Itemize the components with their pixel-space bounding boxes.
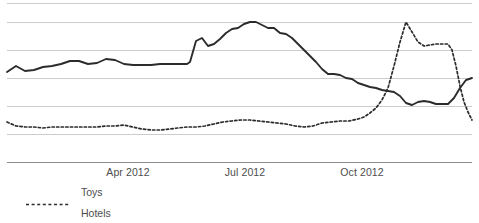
legend-swatch-hotels: [26, 213, 70, 215]
legend-label-hotels: Hotels: [81, 207, 111, 220]
series-lines: [7, 22, 472, 130]
x-tick-label-1: Jul 2012: [225, 166, 266, 178]
legend-label-toys: Toys: [81, 186, 103, 199]
legend-swatch-toys: [26, 192, 70, 194]
legend-item-hotels[interactable]: Hotels: [26, 207, 111, 220]
series-line-toys: [7, 22, 472, 130]
chart-legend: Toys Hotels: [26, 186, 111, 220]
line-chart: Apr 2012Jul 2012Oct 2012 Toys Hotels: [0, 0, 479, 223]
legend-item-toys[interactable]: Toys: [26, 186, 111, 199]
x-tick-label-2: Oct 2012: [340, 166, 383, 178]
x-tick-label-0: Apr 2012: [106, 166, 149, 178]
